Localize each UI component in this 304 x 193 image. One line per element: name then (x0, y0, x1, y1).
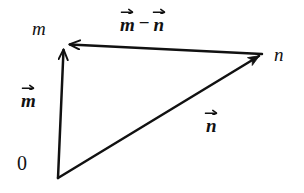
vector-label-n-text: n (206, 116, 217, 135)
vector-label-n-glyph: n (206, 109, 217, 135)
point-label-m-text: m (32, 18, 46, 39)
point-label-m: m (32, 19, 46, 38)
vector-label-m-minus-n: m − n (120, 8, 164, 34)
vector-label-m-minus-n-right: n (154, 8, 165, 34)
vector-label-m-glyph: m (21, 84, 36, 110)
vector-label-m-minus-n-right-text: n (154, 15, 165, 34)
m-vector-shaft (58, 50, 64, 178)
vector-diagram-figure: m m − n n m (0, 0, 304, 193)
n-vector-shaft (58, 56, 259, 178)
point-label-n-text: n (274, 44, 284, 65)
m-minus-n-vector-shaft (70, 45, 262, 55)
vector-label-m: m (21, 84, 36, 110)
point-label-n: n (274, 45, 284, 64)
vector-label-n: n (206, 109, 217, 135)
origin-label-text: 0 (17, 152, 27, 174)
vector-label-m-text: m (21, 91, 36, 110)
minus-sign: − (135, 13, 154, 32)
vector-label-m-minus-n-left-text: m (120, 15, 135, 34)
vector-label-m-minus-n-left: m (120, 8, 135, 34)
origin-label: 0 (17, 153, 27, 173)
